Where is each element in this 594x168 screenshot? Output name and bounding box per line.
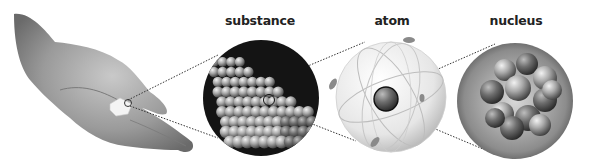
particle [505,75,531,101]
particle [235,57,245,67]
particle [318,136,331,149]
particle [306,116,318,128]
particle [243,67,253,77]
atom-nucleus [374,87,398,111]
particle [314,126,326,138]
label-substance: substance [225,13,295,28]
particle [205,47,215,57]
particle [209,57,219,67]
particle [516,53,538,75]
label-atom: atom [374,13,409,28]
nucleus-illustration [457,43,573,159]
particle [315,116,327,128]
particle [301,136,314,149]
particle [273,86,284,97]
substance-illustration [203,40,331,156]
particle [218,57,228,67]
particle [306,126,318,138]
particle [480,80,504,104]
electron [420,94,425,102]
particle [226,57,236,67]
electron [403,37,415,43]
diagram-canvas: substance atom nucleus [0,0,594,168]
particle [214,47,224,57]
particle [542,80,562,100]
label-nucleus: nucleus [490,13,543,28]
atom-illustration [327,37,448,157]
hand-shape [14,14,193,152]
particle [285,96,296,107]
particle [485,108,505,128]
particle [529,114,551,136]
particle [310,136,323,149]
particle [264,77,275,88]
hand-illustration [14,14,193,152]
